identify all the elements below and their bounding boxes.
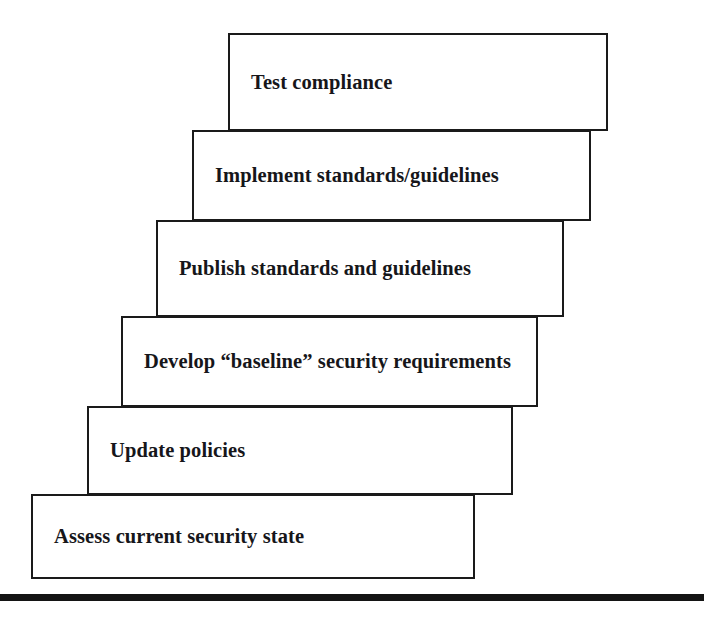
- step-box-update-policies: Update policies: [87, 406, 513, 495]
- step-label: Implement standards/guidelines: [194, 164, 499, 187]
- bottom-divider-rule: [0, 594, 704, 601]
- step-box-publish-standards-and-guidelines: Publish standards and guidelines: [156, 220, 564, 317]
- step-label: Test compliance: [230, 71, 392, 94]
- step-box-develop-baseline-security-requirements: Develop “baseline” security requirements: [121, 316, 538, 407]
- step-box-implement-standards-guidelines: Implement standards/guidelines: [192, 130, 591, 221]
- step-box-assess-current-security-state: Assess current security state: [31, 494, 475, 579]
- step-label: Assess current security state: [33, 525, 304, 548]
- step-label: Develop “baseline” security requirements: [123, 350, 511, 373]
- step-label: Update policies: [89, 439, 245, 462]
- step-box-test-compliance: Test compliance: [228, 33, 608, 131]
- stair-step-diagram: Test compliance Implement standards/guid…: [0, 0, 704, 617]
- step-label: Publish standards and guidelines: [158, 257, 471, 280]
